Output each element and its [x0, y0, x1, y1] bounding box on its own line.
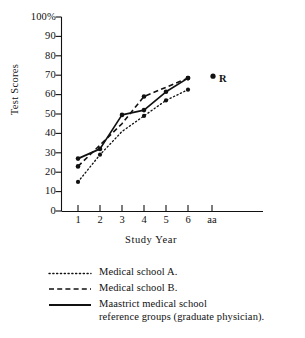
y-tick-label-70: 70	[20, 70, 56, 81]
x-axis-ticks	[78, 205, 212, 211]
y-tick-label-30: 30	[20, 148, 56, 159]
chart-legend: Medical school A. Medical school B. Maas…	[48, 266, 300, 326]
x-tick-label-5: 5	[163, 214, 168, 225]
legend-item-maastricht-reference: Maastrict medical school reference group…	[48, 298, 300, 323]
legend-swatch-solid-icon	[48, 298, 92, 310]
annotation-marker-r	[210, 74, 215, 79]
x-tick-label-1: 1	[75, 214, 80, 225]
series-markers-medical-school-a	[76, 88, 190, 184]
y-tick-label-10: 10	[20, 186, 56, 197]
x-tick-label-6: 6	[185, 214, 190, 225]
y-tick-label-90: 90	[20, 31, 56, 42]
y-axis-title: Test Scores	[9, 52, 20, 128]
chart-figure: 100% 90 80 70 60 50 40 30 20 10 0 1 2 3 …	[0, 0, 305, 338]
annotation-label-r: R	[219, 73, 227, 84]
series-line-medical-school-a	[78, 90, 188, 182]
y-axis-ticks	[56, 17, 62, 211]
series-line-maastricht-reference	[78, 78, 188, 159]
legend-label-medical-school-b: Medical school B.	[99, 282, 177, 295]
y-tick-label-40: 40	[20, 128, 56, 139]
x-axis-tick-labels: 1 2 3 4 5 6 aa	[0, 214, 305, 230]
x-tick-label-aa: aa	[207, 214, 216, 225]
series-markers-maastricht-reference	[76, 76, 191, 161]
y-tick-label-80: 80	[20, 51, 56, 62]
y-tick-label-100: 100%	[20, 12, 56, 23]
x-tick-label-2: 2	[97, 214, 102, 225]
y-tick-label-60: 60	[20, 89, 56, 100]
x-axis-title: Study Year	[96, 234, 206, 245]
legend-swatch-dashed-icon	[48, 282, 92, 294]
series-line-medical-school-b	[78, 78, 188, 166]
series-markers-medical-school-b	[76, 76, 191, 169]
y-tick-label-50: 50	[20, 109, 56, 120]
y-tick-label-20: 20	[20, 167, 56, 178]
legend-label-medical-school-a: Medical school A.	[99, 266, 177, 279]
legend-item-medical-school-a: Medical school A.	[48, 266, 300, 279]
legend-label-maastricht-reference: Maastrict medical school reference group…	[99, 298, 264, 323]
legend-item-medical-school-b: Medical school B.	[48, 282, 300, 295]
x-tick-label-4: 4	[141, 214, 146, 225]
x-tick-label-3: 3	[119, 214, 124, 225]
legend-swatch-dotted-icon	[48, 266, 92, 278]
